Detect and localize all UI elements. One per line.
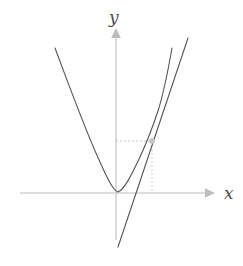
tangent-to-parabola-diagram: x y — [0, 0, 243, 266]
point-of-tangency-marker — [149, 138, 154, 143]
x-axis-label: x — [224, 183, 234, 203]
parabola-curve — [55, 48, 172, 192]
math-figure-canvas: x y — [0, 0, 243, 266]
guide-lines-group — [116, 141, 152, 193]
axes-group — [20, 28, 215, 240]
curves-group — [55, 38, 188, 247]
y-axis-arrowhead-icon — [111, 28, 121, 38]
y-axis-label: y — [108, 7, 119, 27]
x-axis-arrowhead-icon — [205, 188, 215, 198]
